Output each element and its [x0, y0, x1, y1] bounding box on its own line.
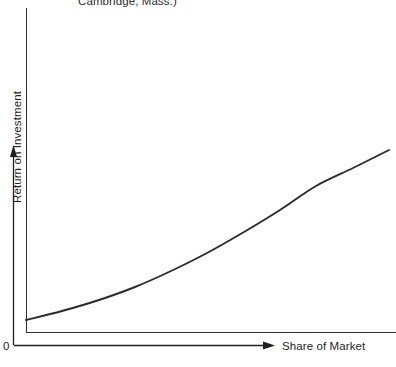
chart-figure: Cambridge, Mass.) Return on Investment 0…: [0, 0, 396, 367]
origin-tick-label: 0: [3, 340, 9, 352]
x-axis-label: Share of Market: [282, 340, 365, 352]
y-axis-label: Return on Investment: [2, 30, 20, 210]
x-axis-arrowhead-icon: [263, 342, 275, 350]
axis-arrows-layer: [0, 0, 396, 367]
y-axis-label-text: Return on Investment: [11, 33, 23, 203]
axis-arrows-svg: [0, 0, 396, 367]
